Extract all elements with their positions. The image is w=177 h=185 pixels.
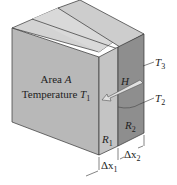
dx2-label: Δx2 — [124, 148, 141, 163]
heat-flow-label: H — [120, 75, 130, 87]
area-label: Area A — [41, 73, 72, 85]
t3-leader — [143, 62, 154, 66]
t3-label: T3 — [155, 56, 165, 71]
dx1-label: Δx1 — [101, 159, 118, 174]
t2-label: T2 — [155, 92, 165, 107]
dx1-arrow-left — [86, 171, 98, 176]
dx2-arrow-right — [138, 146, 143, 148]
composite-slab-diagram: Area A Temperature T1 H T3 T2 R1 R2 Δx1 … — [0, 0, 177, 185]
